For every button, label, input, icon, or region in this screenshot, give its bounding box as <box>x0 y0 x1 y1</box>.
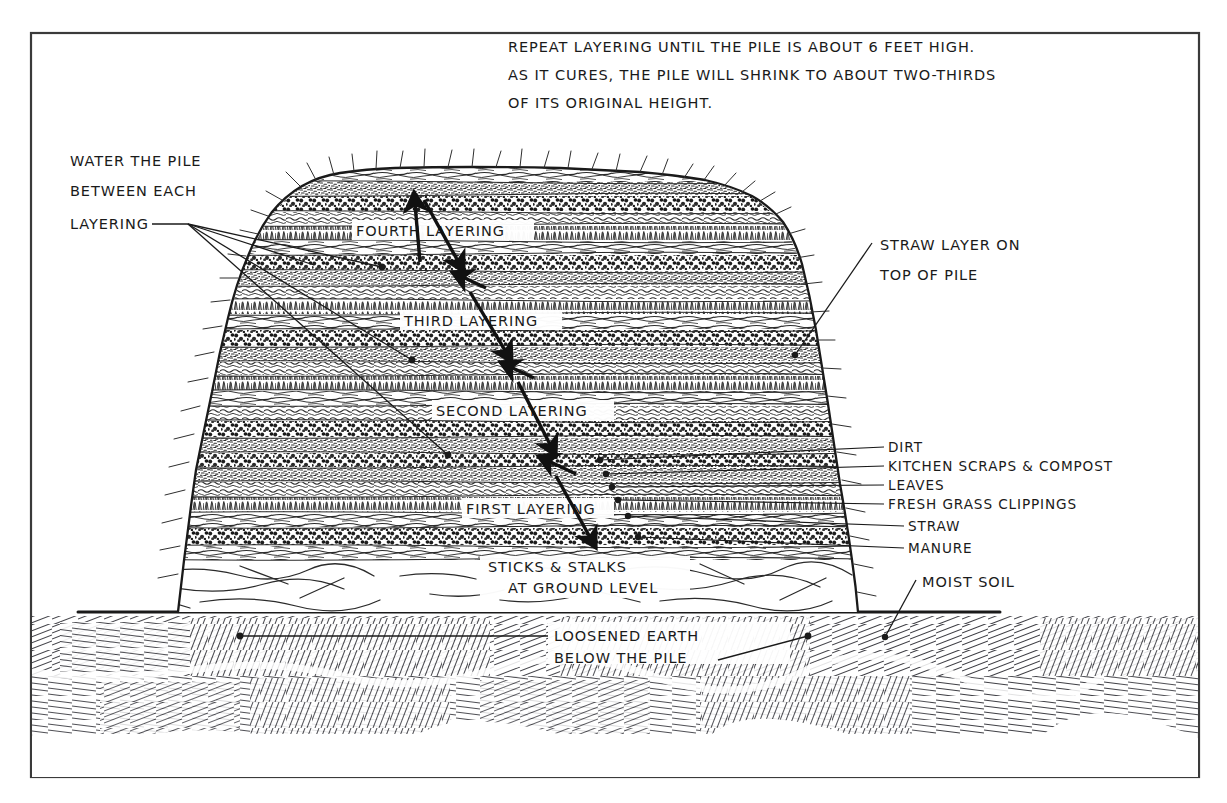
diagram-canvas: REPEAT LAYERING UNTIL THE PILE IS ABOUT … <box>0 0 1227 803</box>
earth-line-2: BELOW THE PILE <box>554 650 687 666</box>
moist-soil-label: MOIST SOIL <box>922 574 1015 590</box>
straw-top-note: STRAW LAYER ON TOP OF PILE <box>879 237 1020 283</box>
straw-top-leader-dot <box>792 352 798 358</box>
loosened-earth-note: LOOSENED EARTH BELOW THE PILE <box>548 622 790 666</box>
sticks-line-2: AT GROUND LEVEL <box>508 580 658 596</box>
header-note-line-2: AS IT CURES, THE PILE WILL SHRINK TO ABO… <box>508 67 996 83</box>
header-note-line-3: OF ITS ORIGINAL HEIGHT. <box>508 95 713 111</box>
material-label-group: DIRT KITCHEN SCRAPS & COMPOST LEAVES FRE… <box>888 439 1113 556</box>
straw-top-line-1: STRAW LAYER ON <box>880 237 1020 253</box>
material-label-kitchen-scraps: KITCHEN SCRAPS & COMPOST <box>888 458 1113 474</box>
material-label-grass: FRESH GRASS CLIPPINGS <box>888 496 1077 512</box>
water-the-pile-note: WATER THE PILE BETWEEN EACH LAYERING <box>70 153 201 232</box>
layering-label-third: THIRD LAYERING <box>403 313 538 329</box>
water-note-line-1: WATER THE PILE <box>70 153 201 169</box>
straw-top-line-2: TOP OF PILE <box>879 267 978 283</box>
material-label-dirt: DIRT <box>888 439 923 455</box>
material-label-straw: STRAW <box>908 518 960 534</box>
water-note-line-3: LAYERING <box>70 216 149 232</box>
water-note-line-2: BETWEEN EACH <box>70 183 197 199</box>
sticks-line-1: STICKS & STALKS <box>488 559 627 575</box>
layering-label-fourth: FOURTH LAYERING <box>356 223 505 239</box>
material-label-manure: MANURE <box>908 540 973 556</box>
moist-soil-leader-dot <box>882 634 888 640</box>
layering-label-second: SECOND LAYERING <box>436 403 588 419</box>
header-note-line-1: REPEAT LAYERING UNTIL THE PILE IS ABOUT … <box>508 39 975 55</box>
material-label-leaves: LEAVES <box>888 477 945 493</box>
compost-diagram-svg: REPEAT LAYERING UNTIL THE PILE IS ABOUT … <box>0 0 1227 803</box>
earth-line-1: LOOSENED EARTH <box>554 628 699 644</box>
header-note: REPEAT LAYERING UNTIL THE PILE IS ABOUT … <box>508 39 996 111</box>
